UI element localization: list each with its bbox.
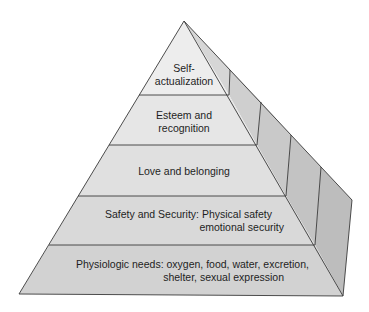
label-self-actualization-line1: Self- [173, 62, 195, 74]
hierarchy-pyramid: Self- actualization Esteem and recogniti… [0, 0, 369, 312]
label-self-actualization-line2: actualization [155, 75, 214, 87]
label-safety-line2: emotional security [199, 221, 284, 233]
label-physiologic-line2: shelter, sexual expression [163, 271, 284, 283]
label-esteem-line2: recognition [158, 122, 210, 134]
label-safety-line1: Safety and Security: Physical safety [105, 208, 273, 220]
label-love: Love and belonging [138, 165, 230, 177]
label-physiologic-line1: Physiologic needs: oxygen, food, water, … [76, 258, 309, 270]
label-esteem-line1: Esteem and [156, 109, 212, 121]
